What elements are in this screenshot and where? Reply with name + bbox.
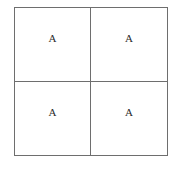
punnett-cell-top-right[interactable]: A [91,8,167,82]
punnett-cell-label: A [48,33,56,44]
punnett-cell-bottom-right[interactable]: A [91,82,167,156]
punnett-cell-label: A [125,33,133,44]
punnett-cell-label: A [125,107,133,118]
punnett-cell-label: A [48,107,56,118]
diagram-canvas: A A A A [0,0,172,170]
punnett-cell-top-left[interactable]: A [15,8,91,82]
punnett-cell-bottom-left[interactable]: A [15,82,91,156]
punnett-square-grid: A A A A [14,7,168,156]
